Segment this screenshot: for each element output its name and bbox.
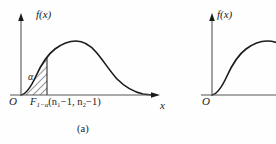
critical-value-label: F1−α(n₁−1, n₂−1) [30,97,101,108]
panel-caption-a: (a) [77,124,89,135]
y-axis-arrowhead [18,13,24,21]
density-curve [212,41,276,95]
origin-label-a: O [9,96,17,107]
panel-b-plot [196,0,276,144]
y-axis-arrowhead [209,13,215,21]
critical-value-subscript: 1−α [36,101,48,109]
x-axis-label-a: x [160,100,165,111]
chart-panel-b: f(x) O [196,0,276,144]
y-axis-label-a: f(x) [36,9,51,20]
alpha-area-label: α [28,72,33,82]
critical-value-arguments: (n₁−1, n₂−1) [48,96,100,107]
chart-panel-a: f(x) x O α F1−α(n₁−1, n₂−1) (a) [0,0,172,144]
statistics-figure: f(x) x O α F1−α(n₁−1, n₂−1) (a) f(x) O [0,0,276,144]
origin-label-b: O [202,96,210,107]
y-axis-label-b: f(x) [217,9,232,20]
x-axis-arrowhead [151,92,160,98]
